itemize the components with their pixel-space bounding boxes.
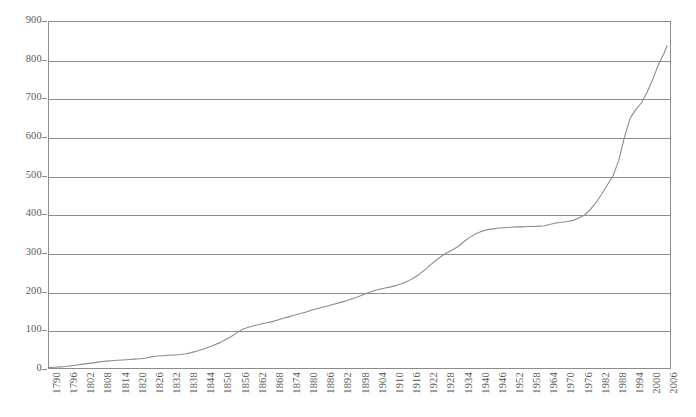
x-axis-tick: 1802	[82, 372, 83, 416]
x-axis-tick-label: 1916	[412, 372, 423, 394]
x-axis-tick-label: 1976	[584, 372, 595, 394]
x-axis-tick: 1994	[631, 372, 632, 416]
x-axis-tick: 1904	[374, 372, 375, 416]
x-axis-tick: 1814	[117, 372, 118, 416]
y-axis-tick-mark	[42, 369, 47, 370]
x-axis: 1790179618021808181418201826183218381844…	[48, 372, 671, 417]
x-axis-tick-label: 1802	[86, 372, 97, 394]
x-axis-tick: 1946	[494, 372, 495, 416]
x-axis-tick-label: 1880	[309, 372, 320, 394]
x-axis-tick-label: 1886	[326, 372, 337, 394]
x-axis-tick-label: 1862	[258, 372, 269, 394]
x-axis-tick: 2000	[648, 372, 649, 416]
x-axis-tick-label: 1922	[429, 372, 440, 394]
x-axis-tick-label: 1844	[206, 372, 217, 394]
x-axis-tick: 1940	[477, 372, 478, 416]
x-axis-tick-label: 1832	[172, 372, 183, 394]
x-axis-tick-label: 1928	[446, 372, 457, 394]
y-axis-tick-mark	[42, 292, 47, 293]
x-axis-tick-label: 1790	[52, 372, 63, 394]
x-axis-tick: 1820	[134, 372, 135, 416]
x-axis-tick-label: 1892	[343, 372, 354, 394]
y-axis-tick-label: 0	[8, 363, 42, 374]
x-axis-tick: 1928	[442, 372, 443, 416]
series-1-polyline	[49, 46, 667, 368]
x-axis-tick: 1838	[185, 372, 186, 416]
x-axis-tick-label: 1874	[292, 372, 303, 394]
x-axis-tick-label: 1994	[635, 372, 646, 394]
x-axis-tick-label: 1796	[69, 372, 80, 394]
line-chart: 9008007006005004003002001000 17901796180…	[0, 0, 696, 417]
x-axis-tick-label: 1814	[121, 372, 132, 394]
x-axis-tick: 1910	[391, 372, 392, 416]
x-axis-tick-label: 1910	[395, 372, 406, 394]
x-axis-tick: 1844	[202, 372, 203, 416]
x-axis-tick-label: 1868	[275, 372, 286, 394]
x-axis-tick: 1862	[254, 372, 255, 416]
x-axis-tick-label: 1826	[155, 372, 166, 394]
x-axis-tick-label: 1838	[189, 372, 200, 394]
x-axis-tick-label: 2000	[652, 372, 663, 394]
x-axis-tick: 1958	[528, 372, 529, 416]
y-axis-tick-label: 400	[8, 208, 42, 219]
y-axis-tick-label: 700	[8, 92, 42, 103]
series-line	[49, 22, 670, 368]
x-axis-tick: 1976	[580, 372, 581, 416]
x-axis-tick: 1982	[597, 372, 598, 416]
x-axis-tick-label: 1988	[618, 372, 629, 394]
x-axis-tick-label: 1970	[566, 372, 577, 394]
y-axis-tick-label: 300	[8, 247, 42, 258]
y-axis-tick-label: 200	[8, 286, 42, 297]
y-axis-tick-mark	[42, 176, 47, 177]
x-axis-tick-label: 1904	[378, 372, 389, 394]
y-axis-tick-label: 600	[8, 131, 42, 142]
x-axis-tick: 1898	[357, 372, 358, 416]
plot-area	[48, 21, 671, 369]
x-axis-tick-label: 1850	[223, 372, 234, 394]
y-axis-tick-mark	[42, 60, 47, 61]
x-axis-tick: 1790	[48, 372, 49, 416]
x-axis-tick-label: 1820	[138, 372, 149, 394]
y-axis-tick-label: 800	[8, 54, 42, 65]
x-axis-tick-label: 1958	[532, 372, 543, 394]
y-axis-tick-label: 900	[8, 15, 42, 26]
x-axis-tick: 1796	[65, 372, 66, 416]
x-axis-tick: 2006	[665, 372, 666, 416]
x-axis-tick: 1934	[460, 372, 461, 416]
x-axis-tick: 1964	[545, 372, 546, 416]
x-axis-tick-label: 1946	[498, 372, 509, 394]
y-axis-tick-mark	[42, 253, 47, 254]
x-axis-tick: 1856	[237, 372, 238, 416]
y-axis: 9008007006005004003002001000	[0, 0, 42, 417]
y-axis-tick-mark	[42, 330, 47, 331]
x-axis-tick: 1916	[408, 372, 409, 416]
y-axis-tick-mark	[42, 214, 47, 215]
y-axis-tick-label: 100	[8, 324, 42, 335]
y-axis-tick-label: 500	[8, 170, 42, 181]
x-axis-tick: 1952	[511, 372, 512, 416]
x-axis-tick-label: 2006	[669, 372, 680, 394]
x-axis-tick: 1988	[614, 372, 615, 416]
x-axis-tick-label: 1940	[481, 372, 492, 394]
y-axis-tick-mark	[42, 98, 47, 99]
x-axis-tick-label: 1952	[515, 372, 526, 394]
x-axis-tick: 1850	[219, 372, 220, 416]
x-axis-tick: 1868	[271, 372, 272, 416]
y-axis-tick-mark	[42, 21, 47, 22]
x-axis-tick-label: 1982	[601, 372, 612, 394]
x-axis-tick-label: 1898	[361, 372, 372, 394]
y-axis-tick-mark	[42, 137, 47, 138]
x-axis-tick: 1832	[168, 372, 169, 416]
x-axis-tick-label: 1808	[103, 372, 114, 394]
x-axis-tick-label: 1856	[241, 372, 252, 394]
x-axis-tick: 1808	[99, 372, 100, 416]
x-axis-tick-label: 1934	[464, 372, 475, 394]
x-axis-tick: 1892	[339, 372, 340, 416]
x-axis-tick: 1826	[151, 372, 152, 416]
x-axis-tick: 1880	[305, 372, 306, 416]
x-axis-tick-label: 1964	[549, 372, 560, 394]
x-axis-tick: 1922	[425, 372, 426, 416]
x-axis-tick: 1970	[562, 372, 563, 416]
x-axis-tick: 1874	[288, 372, 289, 416]
x-axis-tick: 1886	[322, 372, 323, 416]
